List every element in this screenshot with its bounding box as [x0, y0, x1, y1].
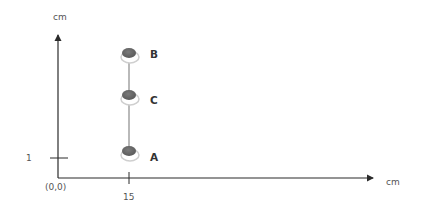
coordinate-diagram: cm cm 1 15 (0,0) B C A	[0, 0, 430, 217]
point-c-label: C	[150, 94, 158, 106]
origin-label: (0,0)	[45, 182, 66, 192]
point-a-label: A	[150, 151, 158, 163]
y-tick-label: 1	[26, 153, 32, 163]
x-tick-label: 15	[123, 192, 134, 202]
point-a-marker	[121, 146, 139, 161]
point-c-marker	[121, 90, 139, 105]
y-axis-unit-label: cm	[53, 12, 67, 22]
point-b-marker	[121, 48, 139, 63]
point-b-label: B	[150, 48, 158, 60]
x-axis-unit-label: cm	[386, 177, 400, 187]
